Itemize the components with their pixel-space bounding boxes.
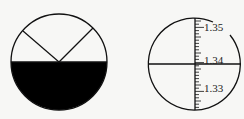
left-field-of-view [11,14,107,110]
scale-label-1-33: 1.33 [204,82,224,94]
right-field-of-view: 1.35 1.34 1.33 [148,18,241,110]
diagram-canvas: 1.35 1.34 1.33 [0,0,244,119]
crosshair-right-arm [59,28,93,62]
crosshair-left-arm [23,31,59,62]
scale-label-1-34: 1.34 [204,54,224,66]
scale-label-1-35: 1.35 [204,21,224,33]
dark-lower-half [11,62,107,110]
